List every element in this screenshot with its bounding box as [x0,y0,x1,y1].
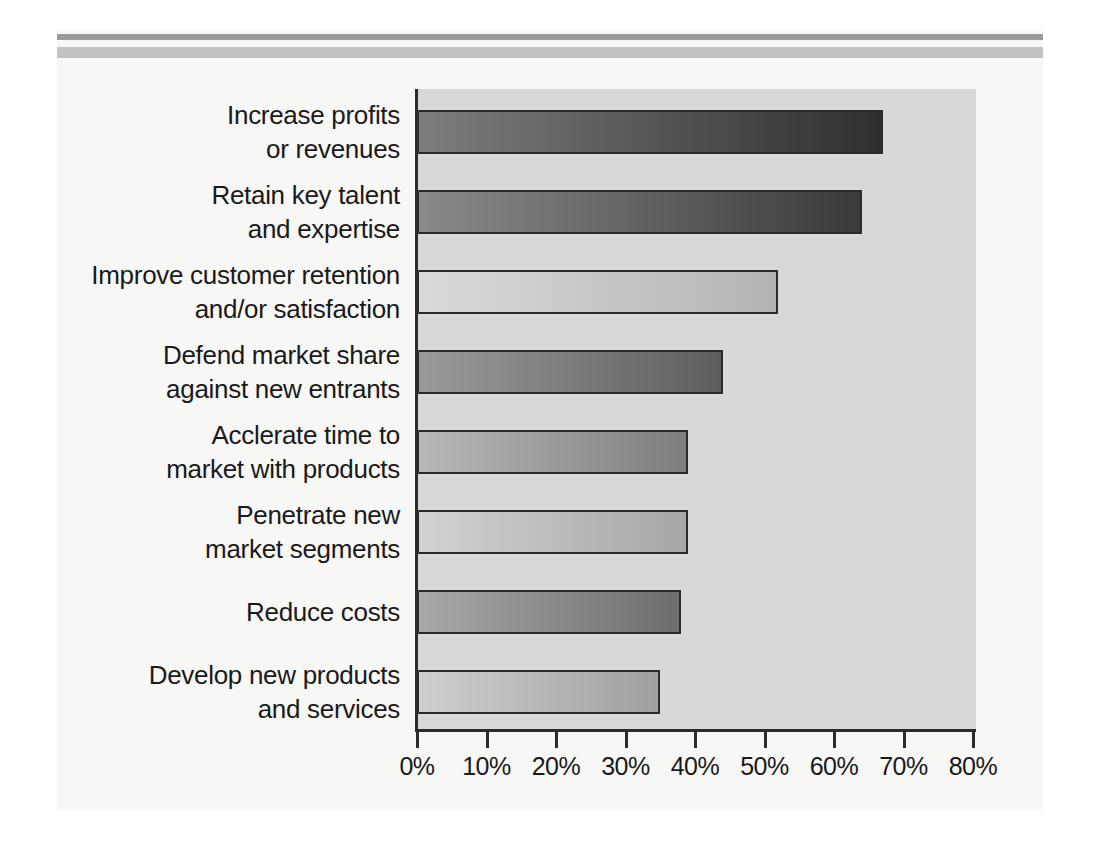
x-axis-tick-label: 20% [516,752,596,781]
x-axis-tick-label: 10% [447,752,527,781]
category-label-line: Improve customer retention [0,258,400,292]
x-axis-tick-label: 60% [794,752,874,781]
x-axis-tick [764,732,767,748]
x-axis-tick-label: 50% [725,752,805,781]
bar [417,590,681,634]
x-axis-tick [625,732,628,748]
category-label-group: Increase profitsor revenues [0,98,403,166]
bar [417,190,862,234]
x-axis-tick [972,732,975,748]
category-label-line: Reduce costs [0,595,400,629]
x-axis-tick [486,732,489,748]
y-axis-line [415,89,418,729]
category-label-group: Improve customer retentionand/or satisfa… [0,258,403,326]
x-axis-tick [833,732,836,748]
category-label-line: Increase profits [0,98,400,132]
category-label-line: Develop new products [0,658,400,692]
category-label-group: Reduce costs [0,595,403,629]
chart-page: Increase profitsor revenuesRetain key ta… [0,0,1101,852]
decorative-rule-thick [57,47,1043,58]
x-axis-tick [694,732,697,748]
category-label-line: or revenues [0,132,400,166]
x-axis-tick [903,732,906,748]
x-axis-tick [416,732,419,748]
bar [417,270,778,314]
category-label-line: Penetrate new [0,498,400,532]
category-label-group: Penetrate newmarket segments [0,498,403,566]
category-label-line: and services [0,692,400,726]
x-axis-tick-label: 40% [655,752,735,781]
category-label-group: Develop new productsand services [0,658,403,726]
category-label-line: against new entrants [0,372,400,406]
x-axis-tick-label: 0% [377,752,457,781]
bar [417,510,688,554]
category-label-group: Defend market shareagainst new entrants [0,338,403,406]
decorative-rule-thin [57,34,1043,40]
category-label-line: Retain key talent [0,178,400,212]
x-axis-tick [555,732,558,748]
bar [417,430,688,474]
x-axis-tick-label: 80% [933,752,1013,781]
x-axis-tick-label: 70% [864,752,944,781]
category-label-line: Acclerate time to [0,418,400,452]
category-label-line: Defend market share [0,338,400,372]
bar [417,670,660,714]
category-label-line: and expertise [0,212,400,246]
x-axis-tick-label: 30% [586,752,666,781]
category-label-line: market with products [0,452,400,486]
bar [417,350,723,394]
bar [417,110,883,154]
category-label-group: Acclerate time tomarket with products [0,418,403,486]
category-label-line: market segments [0,532,400,566]
category-label-group: Retain key talentand expertise [0,178,403,246]
category-label-line: and/or satisfaction [0,292,400,326]
